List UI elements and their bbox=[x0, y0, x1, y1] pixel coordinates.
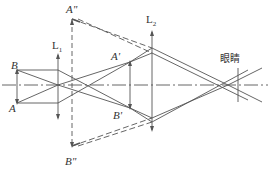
label-B: B bbox=[11, 60, 18, 71]
label-A-double-prime: A" bbox=[66, 4, 77, 15]
label-A-prime: A' bbox=[111, 51, 120, 62]
label-L2: L2 bbox=[146, 14, 156, 28]
label-L1: L1 bbox=[52, 40, 62, 54]
label-L1-text: L bbox=[52, 39, 59, 51]
label-eye: 眼睛 bbox=[220, 54, 240, 64]
label-A: A bbox=[9, 103, 16, 114]
label-L1-sub: 1 bbox=[59, 46, 63, 54]
diagram-lines bbox=[0, 0, 271, 172]
label-B-double-prime: B" bbox=[65, 156, 76, 167]
label-L2-text: L bbox=[146, 13, 153, 25]
optical-diagram: A" L1 L2 B A A' B' B" 眼睛 bbox=[0, 0, 271, 172]
label-L2-sub: 2 bbox=[153, 20, 157, 28]
label-B-prime: B' bbox=[113, 110, 122, 121]
